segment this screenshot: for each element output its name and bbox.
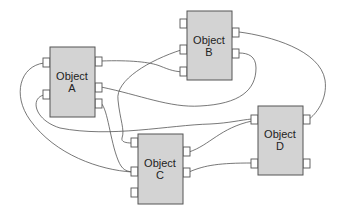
object-b-label-line1: Object [193, 34, 225, 46]
port-d-right-2[interactable] [303, 159, 310, 168]
port-c-left-3[interactable] [131, 188, 138, 197]
port-b-left-1[interactable] [180, 19, 187, 28]
port-c-right-2[interactable] [183, 168, 190, 177]
object-d-label-line1: Object [264, 128, 296, 140]
port-b-left-3[interactable] [180, 67, 187, 76]
port-a-right-1[interactable] [95, 57, 102, 66]
port-a-left-1[interactable] [43, 58, 50, 67]
port-c-right-1[interactable] [183, 147, 190, 156]
object-d[interactable]: Object D [251, 106, 310, 175]
wire-c-d2 [189, 163, 252, 172]
port-b-right-2[interactable] [232, 49, 239, 58]
object-b-label-line2: B [205, 46, 212, 58]
diagram-canvas: Object A Object B Object C Object D [0, 0, 338, 213]
port-a-right-3[interactable] [95, 99, 102, 108]
object-d-label-line2: D [276, 140, 284, 152]
object-c-label-line2: C [156, 169, 164, 181]
port-c-left-2[interactable] [131, 167, 138, 176]
port-d-right-1[interactable] [303, 115, 310, 124]
port-c-left-1[interactable] [131, 138, 138, 147]
object-a[interactable]: Object A [43, 47, 102, 117]
port-b-left-2[interactable] [180, 45, 187, 54]
port-a-right-2[interactable] [95, 83, 102, 92]
object-c-label-line1: Object [144, 157, 176, 169]
port-d-left-2[interactable] [251, 159, 258, 168]
object-a-label-line1: Object [56, 70, 88, 82]
port-d-left-1[interactable] [251, 115, 258, 124]
port-b-right-1[interactable] [232, 28, 239, 37]
port-a-left-2[interactable] [43, 90, 50, 99]
wire-a-c2 [101, 103, 132, 172]
object-a-label-line2: A [68, 82, 76, 94]
object-b[interactable]: Object B [180, 11, 239, 80]
object-c[interactable]: Object C [131, 134, 190, 204]
wire-c-d [189, 121, 252, 152]
